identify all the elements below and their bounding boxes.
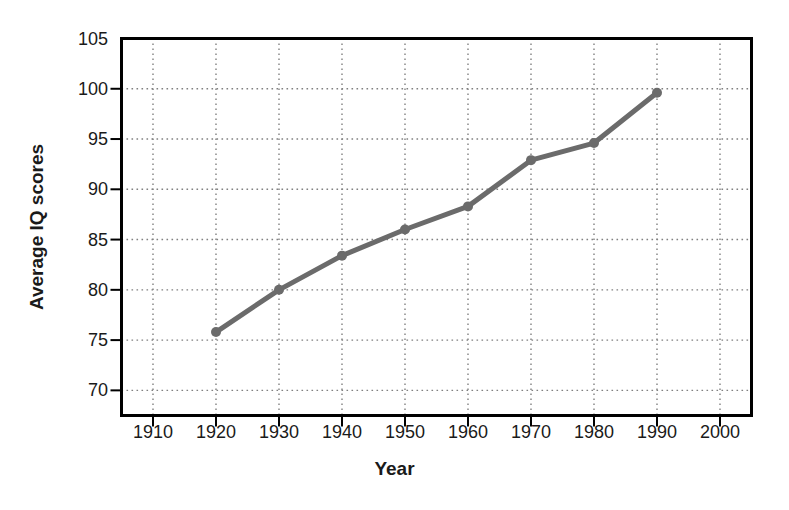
x-tick-label: 1930: [244, 421, 314, 443]
chart-figure: Average IQ scores Year 19101920193019401…: [0, 0, 789, 510]
x-tick-label: 1970: [496, 421, 566, 443]
y-tick-label: 70: [52, 379, 108, 401]
data-point: [463, 201, 473, 211]
y-tick-label: 85: [52, 229, 108, 251]
y-tick-label: 75: [52, 329, 108, 351]
y-tick-label: 105: [52, 28, 108, 50]
x-tick-label: 1940: [307, 421, 377, 443]
data-point: [274, 285, 284, 295]
data-point: [211, 327, 221, 337]
x-tick-label: 2000: [685, 421, 755, 443]
y-axis-title: Average IQ scores: [26, 143, 48, 309]
x-tick-label: 1980: [559, 421, 629, 443]
data-point: [526, 155, 536, 165]
y-tick-label: 100: [52, 78, 108, 100]
x-axis-title: Year: [0, 458, 789, 480]
data-point: [589, 138, 599, 148]
data-point: [400, 225, 410, 235]
x-tick-label: 1920: [181, 421, 251, 443]
data-point: [652, 88, 662, 98]
x-tick-label: 1950: [370, 421, 440, 443]
x-tick-label: 1990: [622, 421, 692, 443]
x-tick-label: 1960: [433, 421, 503, 443]
y-tick-label: 90: [52, 178, 108, 200]
y-axis-title-wrap: Average IQ scores: [22, 38, 52, 415]
data-point: [337, 251, 347, 261]
y-tick-label: 95: [52, 128, 108, 150]
x-tick-label: 1910: [118, 421, 188, 443]
y-tick-label: 80: [52, 279, 108, 301]
